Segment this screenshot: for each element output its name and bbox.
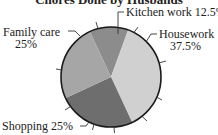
label-housework-value: 37.5% xyxy=(170,40,201,52)
pie-chart xyxy=(0,0,218,135)
label-kitchen-work: Kitchen work 12.5% xyxy=(126,6,218,18)
label-family-care-value: 25% xyxy=(15,38,37,50)
label-shopping: Shopping 25% xyxy=(2,120,73,132)
